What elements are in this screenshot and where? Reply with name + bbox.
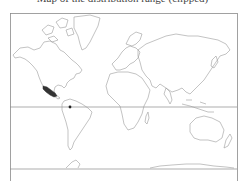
south-america-occurrence-point: [69, 106, 72, 109]
world-map: [0, 0, 245, 181]
map-frame: [11, 14, 238, 182]
